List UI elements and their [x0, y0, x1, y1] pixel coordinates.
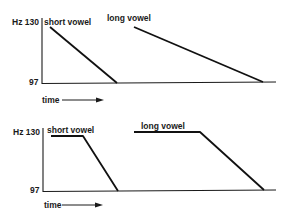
panel-top: Hz 130 97 short vowel long vowel time: [12, 13, 276, 105]
long-vowel-curve: [134, 132, 264, 190]
pitch-contour-diagram: Hz 130 97 short vowel long vowel time Hz…: [0, 0, 283, 217]
x-axis: [43, 190, 276, 192]
x-axis: [42, 82, 276, 84]
time-arrow-icon: [62, 203, 103, 208]
y-top-label: Hz 130: [13, 127, 40, 137]
panel-bottom: Hz 130 97 short vowel long vowel time: [13, 121, 276, 210]
y-top-label: Hz 130: [12, 17, 39, 27]
short-vowel-curve: [50, 27, 117, 83]
series-label-short: short vowel: [47, 125, 94, 135]
long-vowel-curve: [134, 27, 263, 82]
series-label-long: long vowel: [141, 121, 185, 131]
y-bottom-label: 97: [30, 185, 40, 195]
short-vowel-curve: [51, 136, 118, 191]
x-axis-label: time: [42, 95, 60, 105]
x-axis-label: time: [44, 200, 62, 210]
y-bottom-label: 97: [29, 77, 39, 87]
series-label-short: short vowel: [44, 17, 91, 27]
time-arrow-icon: [62, 98, 104, 103]
series-label-long: long vowel: [107, 13, 151, 23]
